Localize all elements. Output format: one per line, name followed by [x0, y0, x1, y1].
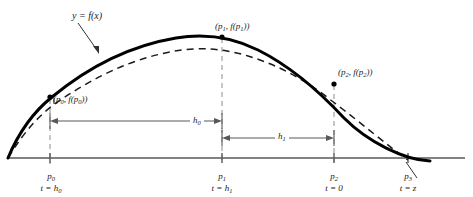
- approximation-parabola: [8, 49, 408, 160]
- axis-label-p0-param: t = h0: [28, 182, 74, 194]
- h1-arrowhead-right: [326, 135, 334, 141]
- point-label-p0: (p0, f(p0)): [53, 95, 87, 104]
- figure-canvas: y = f(x) (p0, f(p0)) (p1, f(p1)) (p2, f(…: [0, 0, 473, 197]
- h0-arrowhead-left: [50, 118, 58, 124]
- h0-arrowhead-right: [214, 118, 222, 124]
- axis-label-p2: p2 t = 0: [311, 170, 357, 194]
- axis-label-p0: p0 t = h0: [28, 170, 74, 194]
- axis-label-p3: p3 t = z: [385, 170, 431, 194]
- axis-label-p1: p1 t = h1: [199, 170, 245, 194]
- interval-label-h0: h0: [190, 116, 204, 125]
- h1-arrowhead-left: [222, 135, 230, 141]
- curve-equation-label: y = f(x): [72, 11, 102, 21]
- axis-label-p3-param: t = z: [385, 182, 431, 194]
- data-point-p0: [47, 94, 52, 99]
- axis-label-p2-name: p2: [311, 170, 357, 182]
- curve-label-arrowhead: [93, 46, 99, 54]
- axis-label-p1-name: p1: [199, 170, 245, 182]
- interval-label-h1: h1: [275, 132, 289, 141]
- axis-label-p1-param: t = h1: [199, 182, 245, 194]
- axis-label-p0-name: p0: [28, 170, 74, 182]
- axis-label-p3-name: p3: [385, 170, 431, 182]
- point-label-p1: (p1, f(p1)): [215, 22, 249, 31]
- data-point-p1: [219, 34, 224, 39]
- axis-label-p2-param: t = 0: [311, 182, 357, 194]
- point-label-p2: (p2, f(p2)): [338, 68, 372, 77]
- curve-label-leader-line: [78, 23, 97, 50]
- data-point-p2: [331, 81, 336, 86]
